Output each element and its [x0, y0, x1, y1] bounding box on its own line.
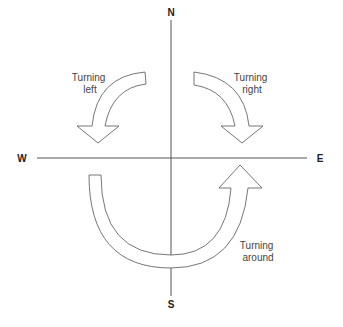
- south-label: S: [168, 299, 175, 310]
- turning-right-label: Turning right: [234, 72, 270, 95]
- turning-around-arrow-icon: [89, 165, 262, 268]
- compass-turning-diagram: N S W E Turning left Turning right Turni…: [0, 0, 343, 327]
- turning-around-label: Turning around: [240, 240, 276, 263]
- north-label: N: [167, 7, 174, 18]
- east-label: E: [317, 153, 324, 164]
- turning-left-label: Turning left: [72, 72, 108, 95]
- west-label: W: [17, 153, 27, 164]
